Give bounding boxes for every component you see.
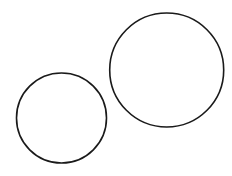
small-circle [17,73,107,163]
diagram-canvas [0,0,232,176]
large-circle [110,13,224,127]
